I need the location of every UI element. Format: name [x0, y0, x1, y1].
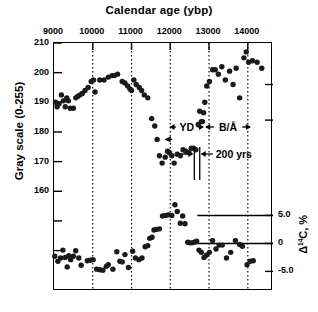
data-point-delta-c14 [207, 250, 212, 255]
y-tick-label-180: 180 [23, 126, 49, 136]
right-axis-title: Δ14C, % [297, 189, 310, 279]
data-point-gray-scale [223, 77, 228, 82]
data-point-delta-c14 [110, 266, 115, 271]
y-tick-label-160: 160 [23, 185, 49, 195]
data-point-delta-c14 [78, 263, 83, 268]
data-point-delta-c14 [194, 238, 199, 243]
data-point-delta-c14 [178, 221, 183, 226]
data-point-gray-scale [63, 104, 68, 109]
data-point-delta-c14 [130, 249, 135, 254]
data-point-delta-c14 [210, 238, 215, 243]
data-point-gray-scale [66, 98, 71, 103]
data-point-delta-c14 [182, 221, 187, 226]
data-point-delta-c14 [122, 252, 127, 257]
data-point-delta-c14 [60, 247, 65, 252]
data-point-delta-c14 [90, 257, 95, 262]
data-point-delta-c14 [240, 244, 245, 249]
data-point-gray-scale [227, 68, 232, 73]
data-point-delta-c14 [58, 255, 63, 260]
data-point-gray-scale [159, 160, 164, 165]
x-tick-label-14000: 14000 [234, 26, 259, 36]
svg-text:B/Å: B/Å [219, 121, 238, 133]
data-point-delta-c14 [172, 202, 177, 207]
data-point-gray-scale [200, 119, 205, 124]
right-axis-title-suffix: C, % [297, 215, 309, 239]
data-point-delta-c14 [233, 238, 238, 243]
data-point-delta-c14 [52, 254, 57, 259]
data-point-gray-scale [250, 58, 255, 63]
data-point-gray-scale [129, 88, 134, 93]
data-point-delta-c14 [106, 262, 111, 267]
data-point-delta-c14 [251, 258, 256, 263]
data-point-gray-scale [71, 106, 76, 111]
y-tick-label-200: 200 [23, 67, 49, 77]
duration-label: 200 yrs [216, 148, 252, 160]
x-tick-label-11000: 11000 [118, 26, 143, 36]
data-point-gray-scale [92, 89, 97, 94]
data-point-gray-scale [216, 71, 221, 76]
data-point-gray-scale [201, 110, 206, 115]
data-point-gray-scale [207, 79, 212, 84]
data-point-delta-c14 [76, 255, 81, 260]
data-point-gray-scale [163, 154, 168, 159]
data-point-delta-c14 [149, 235, 154, 240]
isotope-superscript: 14 [297, 239, 304, 246]
x-tick-label-12000: 12000 [157, 26, 182, 36]
data-point-delta-c14 [71, 254, 76, 259]
data-point-delta-c14 [175, 209, 180, 214]
data-point-gray-scale [230, 82, 235, 87]
x-axis-title: Calendar age (ybp) [0, 4, 318, 16]
data-point-gray-scale [154, 137, 159, 142]
duration-marker-200yrs: 200 yrs [181, 147, 252, 180]
data-point-gray-scale [213, 67, 218, 72]
data-point-delta-c14 [64, 264, 69, 269]
right-tick-label-2: -5.0 [278, 265, 294, 275]
data-point-delta-c14 [73, 248, 78, 253]
data-point-delta-c14 [139, 255, 144, 260]
data-point-gray-scale [59, 92, 64, 97]
plot-area: YDB/Å200 yrs [53, 42, 272, 290]
data-point-gray-scale [244, 49, 249, 54]
y-tick-label-210: 210 [23, 37, 49, 47]
data-point-delta-c14 [224, 255, 229, 260]
data-point-gray-scale [85, 85, 90, 90]
data-point-gray-scale [149, 116, 154, 121]
data-point-delta-c14 [199, 250, 204, 255]
data-point-delta-c14 [114, 249, 119, 254]
y-tick-label-190: 190 [23, 96, 49, 106]
data-point-gray-scale [171, 160, 176, 165]
y-tick-label-170: 170 [23, 156, 49, 166]
data-point-gray-scale [233, 66, 238, 71]
data-point-gray-scale [259, 66, 264, 71]
x-tick-label-10000: 10000 [79, 26, 104, 36]
data-point-gray-scale [254, 60, 259, 65]
delta-symbol: Δ [297, 246, 309, 254]
x-tick-label-13000: 13000 [196, 26, 221, 36]
data-point-gray-scale [115, 71, 120, 76]
figure-root: Calendar age (ybp) Gray scale (0-255) Δ1… [0, 0, 318, 312]
interval-label-ba: B/Å [205, 121, 251, 133]
data-point-delta-c14 [157, 226, 162, 231]
data-point-gray-scale [219, 64, 224, 69]
data-point-delta-c14 [169, 213, 174, 218]
x-tick-label-9000: 9000 [43, 26, 63, 36]
data-point-gray-scale [152, 123, 157, 128]
data-point-gray-scale [237, 95, 242, 100]
right-tick-label-0: 5.0 [278, 209, 291, 219]
dip-arrow-icon [165, 136, 173, 142]
data-point-gray-scale [202, 100, 207, 105]
data-point-gray-scale [91, 77, 96, 82]
data-point-delta-c14 [220, 242, 225, 247]
data-point-delta-c14 [228, 250, 233, 255]
data-point-delta-c14 [145, 243, 150, 248]
data-point-gray-scale [157, 153, 162, 158]
data-point-gray-scale [241, 55, 246, 60]
data-point-gray-scale [145, 95, 150, 100]
data-point-delta-c14 [126, 265, 131, 270]
right-tick-label-1: 0 [278, 237, 283, 247]
svg-text:YD: YD [179, 121, 194, 133]
data-point-delta-c14 [120, 259, 125, 264]
plot-canvas: YDB/Å200 yrs [54, 43, 273, 291]
data-point-delta-c14 [180, 213, 185, 218]
data-point-gray-scale [169, 153, 174, 158]
